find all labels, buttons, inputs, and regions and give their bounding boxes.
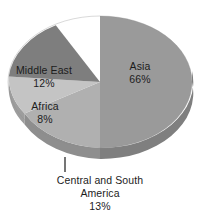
pie-label-middle-east-percent: 12% — [6, 77, 82, 90]
pie-label-asia: Asia 66% — [110, 60, 170, 86]
pie-label-central-south-america-name-line2: America — [8, 187, 192, 200]
pie-label-middle-east: Middle East 12% — [6, 64, 82, 90]
pie-label-africa-percent: 8% — [12, 113, 78, 126]
pie-label-central-south-america-name: Central and South — [8, 174, 192, 187]
pie-label-middle-east-name: Middle East — [6, 64, 82, 77]
pie-label-central-south-america: Central and South America 13% — [8, 174, 192, 213]
pie-label-africa: Africa 8% — [12, 100, 78, 126]
pie-label-asia-name: Asia — [110, 60, 170, 73]
pie-label-africa-name: Africa — [12, 100, 78, 113]
pie-label-asia-percent: 66% — [110, 73, 170, 86]
pie-label-central-south-america-percent: 13% — [8, 200, 192, 213]
pie-chart: Asia 66% Middle East 12% Africa 8% Centr… — [0, 0, 199, 219]
